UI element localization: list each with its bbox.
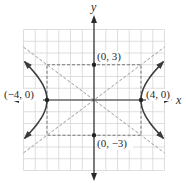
vertex-right-point xyxy=(139,98,143,102)
x-axis-label: x xyxy=(175,93,182,107)
vertex-left-point xyxy=(45,98,49,102)
vertex-left-label: (−4, 0) xyxy=(4,88,34,101)
vertex-right-label: (4, 0) xyxy=(146,88,170,101)
covertex-top-point xyxy=(92,63,96,67)
covertex-top-label: (0, 3) xyxy=(97,50,121,63)
y-axis-label: y xyxy=(90,0,97,14)
covertex-bottom-point xyxy=(92,133,96,137)
covertex-bottom-label: (0, −3) xyxy=(97,137,127,150)
hyperbola-graph: x y (−4, 0) (4, 0) (0, 3) (0, −3) xyxy=(0,0,186,184)
